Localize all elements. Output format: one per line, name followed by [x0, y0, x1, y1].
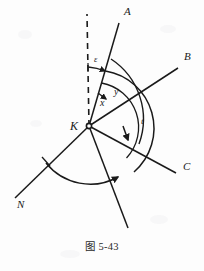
label-ray-b: B [184, 50, 191, 62]
label-vertex-k: K [69, 119, 79, 133]
label-ray-a: A [123, 5, 131, 17]
ray-n-line [15, 126, 89, 198]
label-ray-c: C [183, 160, 191, 172]
angle-epsilon-arc [88, 67, 105, 71]
ray-unlabeled-lower-right-line [89, 126, 128, 228]
figure-page: K A B C N ε x y t 图 5-43 [0, 0, 204, 271]
vertex-point [86, 123, 91, 128]
label-ray-n: N [16, 198, 25, 210]
figure-caption: 图 5-43 [0, 238, 204, 253]
ray-a-line [89, 23, 119, 126]
label-angle-x: x [99, 97, 105, 108]
angle-large-lower-tick [42, 157, 50, 166]
label-angle-epsilon: ε [94, 54, 98, 64]
angle-y-arrow [123, 126, 128, 140]
label-angle-y: y [113, 86, 119, 97]
geometry-diagram: K A B C N ε x y t [0, 0, 204, 271]
angle-x-arc [102, 83, 139, 158]
